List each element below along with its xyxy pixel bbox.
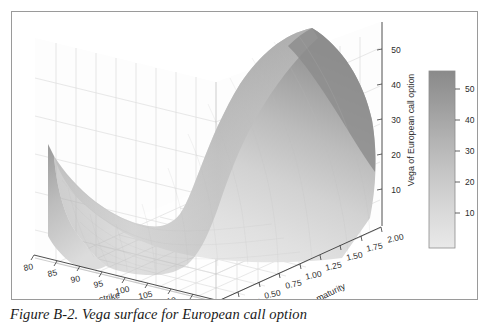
vega-surface-chart: 80 85 90 95 100 105 110 115 120 strike xyxy=(12,12,478,300)
x-tick-label: 85 xyxy=(47,267,59,279)
y-tick-label: 1.75 xyxy=(365,240,384,253)
x-tick-label: 80 xyxy=(23,261,35,273)
y-tick-label: 0.25 xyxy=(243,296,262,300)
plot-frame: 80 85 90 95 100 105 110 115 120 strike xyxy=(11,11,478,300)
z-tick-label: 40 xyxy=(391,80,401,90)
colorbar-tick-label: 20 xyxy=(465,177,475,187)
colorbar-tick-label: 40 xyxy=(465,115,475,125)
z-tick-label: 10 xyxy=(391,185,401,195)
colorbar-tick-label: 50 xyxy=(465,84,475,94)
figure-caption: Figure B-2. Vega surface for European ca… xyxy=(10,306,480,323)
y-axis-title: maturity xyxy=(314,281,347,300)
colorbar-tick-label: 10 xyxy=(465,208,475,218)
y-tick-label: 0.75 xyxy=(284,277,303,290)
colorbar: 10 20 30 40 50 xyxy=(429,71,475,248)
y-tick-label: 2.00 xyxy=(386,231,405,244)
z-tick-label: 30 xyxy=(391,115,401,125)
x-tick-label: 110 xyxy=(162,295,178,300)
x-axis-title: strike xyxy=(98,290,121,300)
y-tick-label: 0.50 xyxy=(263,287,282,300)
z-tick-label: 50 xyxy=(391,45,401,55)
figure-container: 80 85 90 95 100 105 110 115 120 strike xyxy=(0,0,489,334)
x-tick-label: 90 xyxy=(70,273,82,285)
z-axis-vega: 10 20 30 40 50 Vega of European call opt… xyxy=(377,22,416,226)
colorbar-ticks xyxy=(455,89,460,213)
y-tick-label: 1.50 xyxy=(345,249,364,262)
z-tick-label: 20 xyxy=(391,150,401,160)
x-tick-label: 105 xyxy=(137,289,153,300)
y-tick-label: 1.25 xyxy=(324,259,343,272)
colorbar-tick-label: 30 xyxy=(465,146,475,156)
colorbar-gradient xyxy=(429,71,455,248)
x-tick-label: 95 xyxy=(93,278,105,290)
y-tick-label: 1.00 xyxy=(304,268,323,281)
z-axis-title: Vega of European call option xyxy=(406,74,416,187)
